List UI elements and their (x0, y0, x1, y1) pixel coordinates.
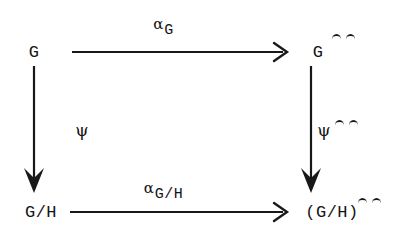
edge-label-alpha-top: αG (153, 15, 173, 34)
commutative-diagram: G G G/H (G/H) αG αG/H ψ ψ (0, 0, 400, 235)
alpha-symbol: α (153, 15, 163, 33)
node-top-right: G (313, 43, 324, 62)
alpha-top-subscript: G (164, 22, 174, 39)
arrow-top-horizontal (72, 43, 287, 61)
arrow-layer (0, 0, 400, 235)
edge-label-alpha-bottom: αG/H (144, 179, 183, 198)
edge-label-psi-left: ψ (75, 120, 88, 140)
alpha-bottom-subscript: G/H (155, 186, 184, 203)
node-bottom-right: (G/H) (305, 203, 359, 222)
arrow-bottom-horizontal (70, 203, 287, 221)
node-top-left: G (29, 43, 40, 62)
alpha-symbol: α (144, 179, 154, 197)
edge-label-psi-right: ψ (317, 120, 330, 140)
node-bottom-left: G/H (25, 203, 57, 222)
arrow-left-vertical (24, 66, 44, 193)
